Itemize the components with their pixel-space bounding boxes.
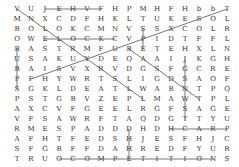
found-word-lines bbox=[10, 4, 234, 164]
word-search-grid: VUJEHVFHPMHFHbbTMNXCDFHKLTUKESOLBOLOKCMN… bbox=[10, 4, 234, 164]
found-word-line bbox=[17, 9, 143, 99]
found-word-line bbox=[31, 9, 227, 79]
found-word-line bbox=[129, 49, 199, 99]
